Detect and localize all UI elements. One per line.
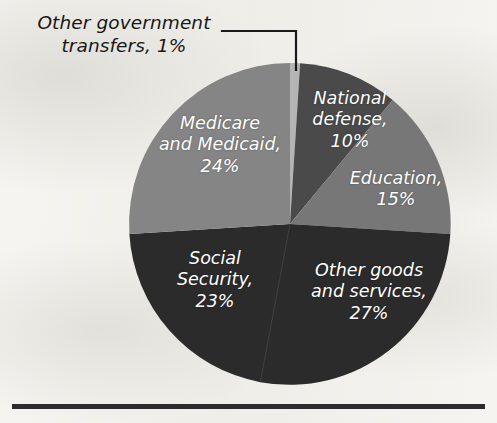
slice-label-other-goods-and-services: Other goods and services, 27% <box>288 260 450 324</box>
pie-chart-graphic <box>0 0 497 423</box>
slice-label-education: Education, 15% <box>330 168 462 211</box>
pie-chart-figure: Other government transfers, 1% National … <box>0 0 497 423</box>
callout-label-other-government-transfers: Other government transfers, 1% <box>18 11 230 58</box>
bottom-rule <box>12 404 485 409</box>
slice-label-medicare-and-medicaid: Medicare and Medicaid, 24% <box>122 113 318 177</box>
slice-label-social-security: Social Security, 23% <box>140 248 290 312</box>
